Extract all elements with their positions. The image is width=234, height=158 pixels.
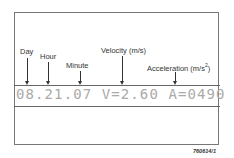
diagram-frame (14, 12, 219, 145)
day-pointer-line (27, 58, 28, 82)
figure-reference: 760614/1 (193, 148, 216, 154)
label-day: Day (20, 47, 33, 56)
label-velocity: Velocity (m/s) (101, 46, 146, 55)
velocity-pointer-line (122, 56, 123, 82)
label-acceleration: Acceleration (m/s2) (147, 62, 210, 73)
label-hour: Hour (40, 52, 56, 61)
hour-pointer-line (48, 62, 49, 82)
readout-text: 08.21.07 V=2.60 A=0490 (16, 86, 226, 102)
label-minute: Minute (66, 61, 89, 70)
